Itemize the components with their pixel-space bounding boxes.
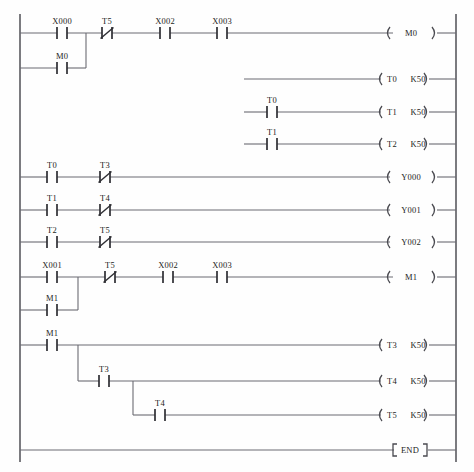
contact-label: T1 (267, 127, 277, 137)
coil-label: T1 (387, 107, 397, 117)
rung-3-t1[interactable]: T0T1K50 (244, 95, 456, 118)
rung-1-m0[interactable]: X000T5X002X003M0 (20, 16, 456, 39)
coil-arc-right (432, 27, 435, 39)
rung-5-y000[interactable]: T0T3Y000 (20, 160, 456, 183)
contact-label: T4 (100, 193, 110, 203)
coil-label: T4 (387, 376, 397, 386)
contact-label: X003 (212, 16, 232, 26)
contact-label: M1 (46, 328, 58, 338)
contact-label: T0 (47, 160, 57, 170)
coil-label: T2 (387, 139, 397, 149)
end-label: END (401, 445, 419, 455)
contact-label: T5 (100, 225, 110, 235)
coil-arc-right (432, 204, 435, 216)
rung-9-t3[interactable]: M1T3K50 (20, 328, 456, 351)
rung-8-branch-m1-latch[interactable]: M1 (20, 277, 78, 316)
end-bracket-left (393, 444, 397, 456)
contact-label: T5 (105, 260, 115, 270)
contact-label: T1 (47, 193, 57, 203)
coil-preset-value: K50 (410, 74, 425, 84)
coil-preset-value: K50 (410, 410, 425, 420)
rung-7-y002[interactable]: T2T5Y002 (20, 225, 456, 248)
rung-12-end[interactable]: END (20, 444, 456, 456)
contact-label: T3 (100, 160, 110, 170)
contact-label: X002 (158, 260, 178, 270)
contact-label: T3 (99, 364, 109, 374)
coil-label: Y002 (401, 237, 421, 247)
rung-10-t4[interactable]: T3T4K50 (78, 345, 456, 387)
contact-label: T5 (102, 16, 112, 26)
coil-label: Y001 (401, 205, 421, 215)
coil-label: T3 (387, 340, 397, 350)
coil-label: M0 (405, 28, 417, 38)
coil-preset-value: K50 (410, 107, 425, 117)
end-bracket-right (423, 444, 427, 456)
contact-label: X002 (155, 16, 175, 26)
coil-preset-value: K50 (410, 139, 425, 149)
coil-label: Y000 (401, 172, 421, 182)
rung-8-m1[interactable]: X001T5X002X003M1 (20, 260, 456, 283)
contact-label: T4 (155, 398, 165, 408)
coil-label: M1 (405, 272, 417, 282)
coil-label: T0 (387, 74, 397, 84)
ladder-logic-svg: X000T5X002X003M0M0T0K50T0T1K50T1T2K50T0T… (0, 0, 474, 472)
coil-arc-right (432, 271, 435, 283)
contact-label: X001 (42, 260, 62, 270)
ladder-diagram-canvas: X000T5X002X003M0M0T0K50T0T1K50T1T2K50T0T… (0, 0, 474, 472)
contact-label: M1 (46, 293, 58, 303)
rung-4-t2[interactable]: T1T2K50 (244, 127, 456, 150)
contact-label: X003 (212, 260, 232, 270)
rung-11-t5[interactable]: T4T5K50 (133, 381, 456, 421)
rung-2-t0[interactable]: T0K50 (244, 73, 456, 85)
contact-label: T0 (267, 95, 277, 105)
coil-preset-value: K50 (410, 340, 425, 350)
rung-1-branch-m0-latch[interactable]: M0 (20, 33, 86, 74)
contact-label: X000 (52, 16, 72, 26)
contact-label: T2 (47, 225, 57, 235)
rung-6-y001[interactable]: T1T4Y001 (20, 193, 456, 216)
coil-arc-right (432, 171, 435, 183)
coil-preset-value: K50 (410, 376, 425, 386)
coil-label: T5 (387, 410, 397, 420)
contact-label: M0 (56, 51, 68, 61)
coil-arc-right (432, 236, 435, 248)
